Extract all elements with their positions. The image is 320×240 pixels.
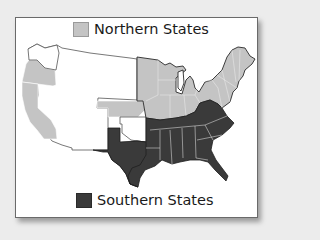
lake-michigan — [178, 70, 184, 91]
legend-northern-label: Northern States — [94, 21, 209, 37]
legend-northern: Northern States — [73, 21, 209, 37]
region-indian-territory — [120, 117, 146, 142]
northern-swatch — [73, 22, 89, 37]
southern-swatch — [76, 193, 92, 208]
region-northern-states — [137, 47, 255, 120]
legend-southern-label: Southern States — [97, 192, 214, 208]
legend-southern: Southern States — [76, 192, 214, 208]
